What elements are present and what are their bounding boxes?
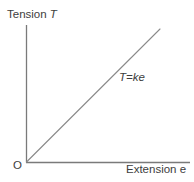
y-axis-label: Tension T — [7, 9, 57, 21]
x-axis-label-text: Extension — [126, 163, 177, 175]
x-axis-symbol: e — [180, 163, 186, 175]
proportionality-line — [27, 29, 161, 162]
line-equation-label: T=ke — [119, 72, 145, 84]
origin-label: O — [13, 160, 22, 172]
y-axis-label-text: Tension — [7, 8, 47, 20]
graph-canvas — [0, 0, 194, 182]
tension-extension-graph: Tension T Extension e O T=ke — [0, 0, 194, 182]
y-axis-symbol: T — [50, 8, 57, 20]
x-axis-label: Extension e — [126, 164, 186, 176]
